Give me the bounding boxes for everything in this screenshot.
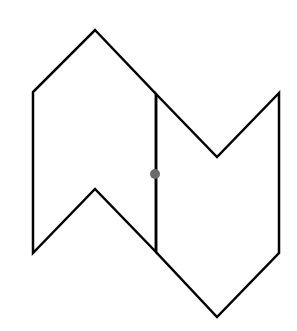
left-pentagon-chevron (33, 30, 156, 253)
right-pentagon-chevron (156, 93, 279, 317)
marked-point (150, 169, 160, 179)
diagram-canvas (0, 0, 297, 331)
